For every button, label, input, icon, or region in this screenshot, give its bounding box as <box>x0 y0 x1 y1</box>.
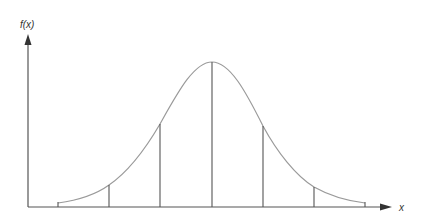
y-axis-arrow-icon <box>25 34 32 45</box>
x-axis-arrow-icon <box>380 204 392 211</box>
y-axis-label: f(x) <box>20 19 34 30</box>
normal-distribution-diagram: f(x) x <box>0 0 426 219</box>
x-axis-label: x <box>398 202 405 213</box>
